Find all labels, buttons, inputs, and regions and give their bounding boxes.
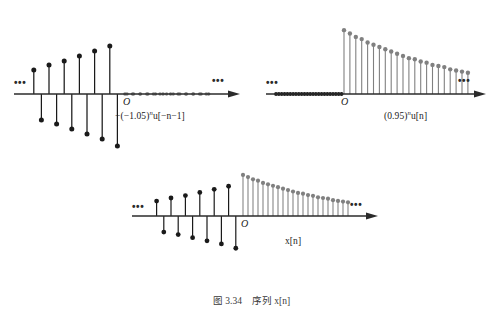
stem-marker — [219, 242, 224, 247]
right-signal-plot: ••• ••• O (0.95)nu[n] — [258, 8, 503, 138]
stem-marker — [205, 238, 210, 243]
sum-plot-stems — [154, 173, 350, 251]
stem-marker — [454, 68, 458, 72]
stem-marker — [326, 197, 330, 201]
left-plot-stems — [31, 44, 120, 149]
left-plot-origin-label: O — [123, 96, 130, 107]
stem-marker — [291, 189, 295, 193]
stem-marker — [360, 37, 364, 41]
stem-marker — [233, 246, 238, 251]
stem-marker — [169, 196, 174, 201]
stem-marker — [251, 177, 255, 181]
stem-marker — [365, 40, 369, 44]
stem-marker — [401, 54, 405, 58]
stem-marker — [183, 193, 188, 198]
stem-marker — [190, 235, 195, 240]
right-plot-svg — [258, 8, 503, 138]
right-plot-axis-arrow — [474, 90, 486, 97]
right-plot-origin-label: O — [341, 96, 348, 107]
right-plot-left-ellipsis: ••• — [266, 78, 278, 88]
stem-marker — [336, 199, 340, 203]
stem-marker — [395, 51, 399, 55]
stem-marker — [377, 45, 381, 49]
stem-marker — [436, 64, 440, 68]
stem-marker — [69, 127, 74, 132]
left-eq-suffix: u[−n−1] — [153, 111, 185, 121]
stem-marker — [424, 60, 428, 64]
sum-plot-svg — [118, 158, 383, 283]
right-plot-right-ellipsis: ••• — [458, 76, 470, 86]
left-plot-left-ellipsis: ••• — [14, 78, 26, 88]
figure-container: ••• ••• O −(−1.05)nu[−n−1] ••• ••• O (0.… — [0, 0, 503, 320]
left-plot-axis-arrow — [228, 90, 240, 97]
stem-marker — [256, 179, 260, 183]
stem-marker — [389, 49, 393, 53]
sum-plot-right-ellipsis: ••• — [350, 200, 362, 210]
stem-marker — [311, 194, 315, 198]
stem-marker — [342, 28, 346, 32]
stem-marker — [115, 144, 120, 149]
sum-plot-origin-label: O — [241, 218, 248, 229]
stem-marker — [301, 192, 305, 196]
figure-caption: 图 3.34序列 x[n] — [0, 293, 503, 307]
stem-marker — [331, 198, 335, 202]
stem-marker — [354, 35, 358, 39]
caption-number: 图 3.34 — [213, 296, 242, 306]
stem-marker — [176, 232, 181, 237]
stem-marker — [246, 175, 250, 179]
sum-plot-axis-arrow — [366, 212, 378, 219]
stem-marker — [316, 195, 320, 199]
stem-marker — [383, 47, 387, 51]
stem-marker — [54, 122, 59, 127]
stem-marker — [306, 193, 310, 197]
stem-marker — [212, 187, 217, 192]
left-signal-plot: ••• ••• O −(−1.05)nu[−n−1] — [0, 8, 255, 146]
stem-marker — [407, 56, 411, 60]
stem-marker — [266, 182, 270, 186]
stem-marker — [161, 230, 166, 235]
stem-marker — [281, 187, 285, 191]
stem-marker — [419, 59, 423, 63]
right-eq-prefix: (0.95) — [384, 111, 408, 121]
stem-marker — [430, 63, 434, 67]
stem-marker — [371, 43, 375, 47]
sum-eq-prefix: x[n] — [285, 236, 301, 246]
stem-marker — [226, 184, 231, 189]
stem-marker — [341, 200, 345, 204]
stem-marker — [448, 67, 452, 71]
stem-marker — [154, 199, 159, 204]
stem-marker — [321, 196, 325, 200]
left-plot-equation-label: −(−1.05)nu[−n−1] — [115, 111, 185, 121]
stem-marker — [85, 132, 90, 137]
stem-marker — [100, 137, 105, 142]
stem-marker — [107, 44, 112, 49]
caption-text: 序列 x[n] — [252, 296, 290, 306]
stem-marker — [62, 59, 67, 64]
stem-marker — [92, 49, 97, 54]
stem-marker — [77, 54, 82, 59]
sum-plot-equation-label: x[n] — [285, 236, 301, 246]
right-plot-stems — [342, 28, 470, 94]
stem-marker — [261, 181, 265, 185]
stem-marker — [460, 69, 464, 73]
sum-signal-plot: ••• ••• O x[n] — [118, 158, 383, 283]
stem-marker — [348, 31, 352, 35]
stem-marker — [39, 118, 44, 123]
right-eq-suffix: u[n] — [411, 111, 427, 121]
stem-marker — [31, 68, 36, 73]
stem-marker — [271, 184, 275, 188]
stem-marker — [413, 57, 417, 61]
stem-marker — [47, 63, 52, 68]
stem-marker — [296, 191, 300, 195]
stem-marker — [442, 65, 446, 69]
stem-marker — [197, 190, 202, 195]
stem-marker — [286, 188, 290, 192]
left-plot-right-ellipsis: ••• — [212, 76, 224, 86]
stem-marker — [276, 185, 280, 189]
left-eq-prefix: −(−1.05) — [115, 111, 149, 121]
sum-plot-left-ellipsis: ••• — [132, 202, 144, 212]
right-plot-equation-label: (0.95)nu[n] — [384, 111, 427, 121]
stem-marker — [241, 173, 245, 177]
